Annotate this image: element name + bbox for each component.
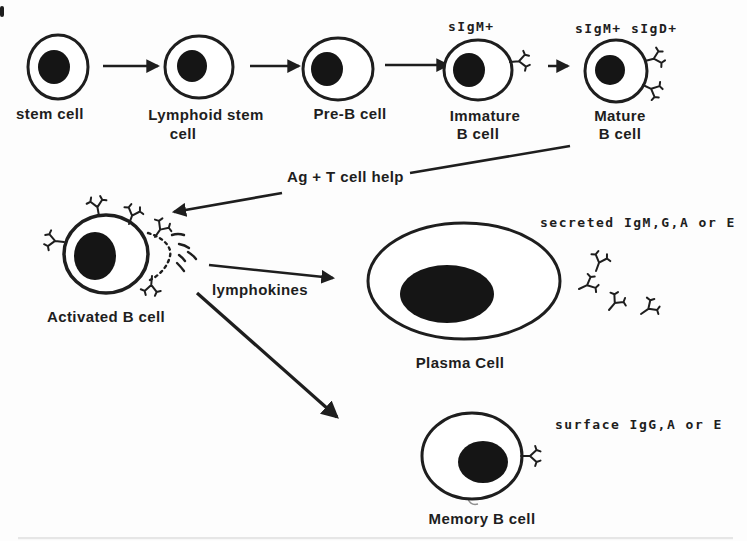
secretion-dashes: [172, 234, 196, 271]
lymphokines-label: lymphokines: [212, 281, 308, 298]
activated-b-cell-nucleus: [74, 232, 116, 280]
immature-b-cell-label-line1: Immature: [450, 107, 521, 124]
lymphoid-stem-cell-nucleus: [177, 50, 207, 82]
mature-b-cell-nucleus: [595, 55, 625, 85]
antibody-icon: [601, 289, 629, 317]
pre-b-cell-label: Pre-B cell: [313, 105, 386, 122]
scan-artifact: [18, 537, 733, 539]
memory-b-cell-label: Memory B cell: [429, 510, 536, 527]
activation-arrow-segment2: [174, 193, 282, 212]
surface-ig-annotation: surface IgG,A or E: [555, 417, 723, 432]
antibody-icon: [587, 249, 612, 274]
pre-b-cell-nucleus: [311, 52, 343, 86]
immature-b-cell-label-line2: B cell: [457, 125, 499, 142]
stem-cell: stem cell: [16, 35, 88, 122]
activation-arrow-segment1: [410, 146, 570, 173]
plasma-cell: Plasma Cell: [368, 223, 560, 371]
memory-b-cell-nucleus: [458, 441, 508, 483]
memory-b-cell: surface IgG,A or E Memory B cell: [422, 413, 723, 527]
immature-b-cell-nucleus: [453, 53, 485, 87]
antibody-icon: [575, 272, 601, 298]
b-cell-development-diagram: stem cell Lymphoid stem cell Pre-B cell …: [0, 0, 747, 541]
lymphoid-stem-cell-label-line2: cell: [170, 125, 197, 142]
stem-cell-label: stem cell: [16, 105, 84, 122]
activated-b-cell-label: Activated B cell: [47, 308, 165, 325]
surface-ig-receptor-icon: [521, 446, 541, 466]
antibody-icon: [635, 295, 662, 323]
plasma-cell-label: Plasma Cell: [416, 354, 505, 371]
arrow-to-memory-cell: [197, 293, 337, 417]
lymphokines-arrow: lymphokines: [209, 265, 333, 298]
plasma-cell-nucleus: [400, 265, 494, 323]
secretory-bulge: [148, 233, 170, 280]
receptor-icon: [43, 230, 65, 252]
activation-arrow-label: Ag + T cell help: [287, 168, 404, 185]
mature-b-cell-label-line2: B cell: [599, 125, 641, 142]
stem-cell-nucleus: [38, 50, 70, 84]
mature-b-cell: sIgM+ sIgD+ Mature B cell: [575, 21, 678, 142]
lymphoid-stem-cell-label-line1: Lymphoid stem: [148, 106, 264, 123]
secreted-antibodies: secreted IgM,G,A or E: [540, 215, 736, 322]
scan-artifact: [0, 6, 4, 17]
activation-arrow: Ag + T cell help: [174, 146, 570, 212]
pre-b-cell: Pre-B cell: [303, 38, 387, 122]
lymphoid-stem-cell: Lymphoid stem cell: [148, 36, 264, 142]
activated-b-cell: Activated B cell: [43, 195, 196, 325]
receptor-icon: [140, 275, 162, 296]
mature-b-cell-marker: sIgM+ sIgD+: [575, 21, 678, 36]
immature-b-cell-marker: sIgM+: [448, 19, 495, 34]
mature-b-cell-label-line1: Mature: [594, 107, 646, 124]
lymphokines-arrow-line: [209, 265, 333, 278]
immature-b-cell: sIgM+ Immature B cell: [444, 19, 530, 142]
secreted-antibody-annotation: secreted IgM,G,A or E: [540, 215, 736, 230]
